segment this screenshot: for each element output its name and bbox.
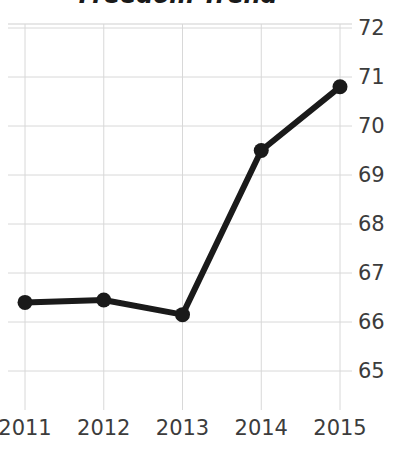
x-axis-tick-label: 2012 [69, 418, 139, 439]
data-point-marker[interactable] [96, 292, 111, 307]
data-point-marker[interactable] [18, 295, 33, 310]
y-axis-tick-label: 69 [358, 165, 396, 186]
vertical-gridlines [25, 24, 340, 410]
y-axis-tick-label: 68 [358, 214, 396, 235]
plot-area [0, 0, 396, 449]
y-axis-tick-label: 66 [358, 312, 396, 333]
y-axis-tick-label: 65 [358, 361, 396, 382]
data-point-marker[interactable] [175, 307, 190, 322]
x-axis-tick-label: 2014 [226, 418, 296, 439]
y-axis-tick-label: 72 [358, 18, 396, 39]
chart-container: Freedom Trend 7271706968676665 201120122… [0, 0, 396, 449]
line-chart-svg [0, 0, 396, 449]
x-axis-tick-label: 2015 [305, 418, 375, 439]
y-axis-tick-label: 71 [358, 67, 396, 88]
y-axis-tick-label: 70 [358, 116, 396, 137]
x-axis-tick-label: 2013 [148, 418, 218, 439]
data-point-marker[interactable] [254, 143, 269, 158]
data-point-marker[interactable] [333, 79, 348, 94]
y-axis-tick-label: 67 [358, 263, 396, 284]
x-axis-tick-label: 2011 [0, 418, 60, 439]
